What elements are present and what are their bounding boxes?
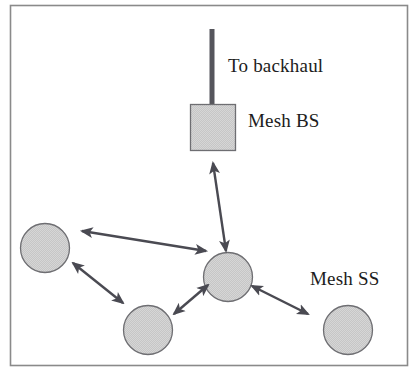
node-mesh-ss-bottom[interactable] <box>124 306 173 355</box>
node-mesh-bs[interactable] <box>191 105 236 151</box>
antenna-mast-icon <box>210 29 215 107</box>
diagram-canvas: To backhaul Mesh BS Mesh SS <box>0 0 417 382</box>
label-mesh-ss: Mesh SS <box>310 268 380 290</box>
node-mesh-ss-left[interactable] <box>21 224 70 273</box>
node-mesh-ss-hub[interactable] <box>204 253 253 302</box>
topology-svg <box>0 0 417 382</box>
label-mesh-bs: Mesh BS <box>248 110 320 132</box>
label-to-backhaul: To backhaul <box>228 55 323 77</box>
node-mesh-ss-right[interactable] <box>324 306 373 355</box>
